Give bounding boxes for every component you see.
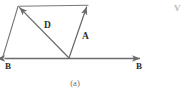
vector-diagram-figure: D A B B (a) V bbox=[0, 0, 184, 97]
vector-d-line bbox=[20, 8, 69, 58]
parallelogram-left-side bbox=[3, 7, 19, 59]
figure-caption: (a) bbox=[0, 79, 150, 88]
vector-d-label: D bbox=[44, 21, 51, 31]
axis-label-left-b: B bbox=[5, 62, 11, 71]
parallelogram-top-side bbox=[18, 5, 88, 6]
axis-label-right-b: B bbox=[136, 62, 142, 71]
vector-a-label: A bbox=[82, 32, 89, 42]
corner-partial-glyph: V bbox=[174, 4, 182, 14]
